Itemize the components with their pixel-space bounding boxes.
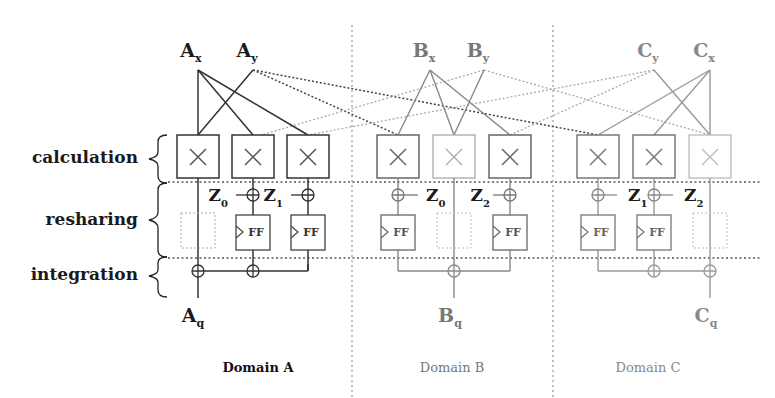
mask-z0: Z0 [426,185,445,209]
brace-icon [149,135,167,183]
brace-icon [149,257,167,297]
mask-z2: Z2 [471,185,490,209]
input-by: By [467,39,490,65]
output-aq: Aq [181,304,205,330]
output-cq: Cq [695,304,718,330]
flipflop: FF [493,215,527,250]
multiplier-box [433,135,475,178]
domain-c: Cy Cx [577,39,731,375]
svg-text:FF: FF [649,226,665,239]
domain-b: Bx By [377,39,531,375]
multiplier-box [377,135,419,178]
svg-text:FF: FF [393,226,409,239]
multiplier-box [489,135,531,178]
stage-label-resharing: resharing [46,209,138,229]
multiplier-box [577,135,619,178]
flipflop: FF [291,215,325,250]
multiplier-box [287,135,329,178]
mask-z1: Z1 [628,185,647,209]
masked-multiplication-diagram: calculation resharing integration Ax Ay [0,0,775,398]
multiplier-box [633,135,675,178]
input-cx: Cx [693,39,715,65]
stage-label-integration: integration [31,264,138,284]
flipflop: FF [236,215,270,250]
flipflop: FF [581,215,615,250]
input-bx: Bx [413,39,436,65]
input-ax: Ax [179,39,202,65]
flipflop: FF [637,215,671,250]
domain-a: Ax Ay [177,39,329,375]
multiplier-box [232,135,274,178]
svg-text:FF: FF [248,226,264,239]
svg-text:FF: FF [505,226,521,239]
multiplier-box [177,135,219,178]
multiplier-box [689,135,731,178]
stage-integration: integration [31,257,167,297]
stage-resharing: resharing [46,183,167,257]
mask-z0: Z0 [209,185,228,209]
brace-icon [149,183,167,257]
stage-label-calculation: calculation [32,147,138,167]
flipflop: FF [381,215,415,250]
stage-calculation: calculation [32,135,167,183]
mask-z1: Z1 [264,185,283,209]
domain-label-b: Domain B [420,360,485,375]
input-cy: Cy [637,39,659,65]
domain-label-a: Domain A [222,360,294,375]
domain-label-c: Domain C [616,360,681,375]
svg-text:FF: FF [303,226,319,239]
mask-z2: Z2 [684,185,703,209]
output-bq: Bq [438,304,462,330]
input-ay: Ay [235,39,258,65]
svg-text:FF: FF [593,226,609,239]
cross-domain-wires [253,70,710,135]
